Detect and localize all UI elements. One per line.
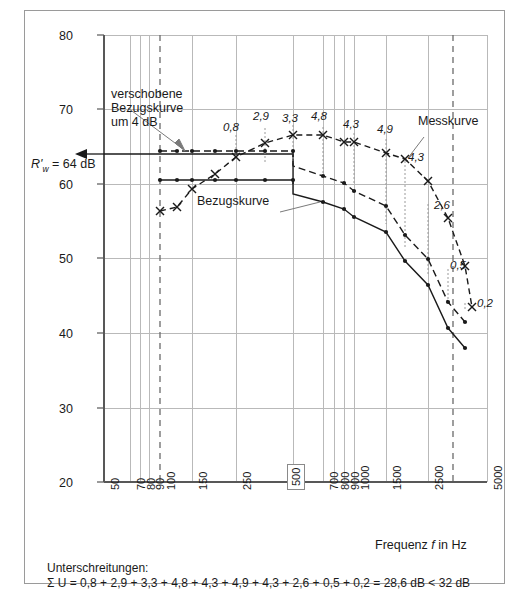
deficiency-label-4: 4,3: [343, 118, 359, 130]
chart-page: Bau-Schalldämm-Maß R' in dB 80 70 60 50 …: [0, 0, 529, 601]
deficiency-label-9: 0,2: [477, 297, 493, 309]
annotation-shifted-curve: verschobene Bezugskurve um 4 dB: [111, 87, 183, 129]
x-tick-50: 50: [109, 478, 121, 490]
deficiency-label-5: 4,9: [377, 123, 393, 135]
annotation-shifted-curve-line1: verschobene: [111, 87, 183, 101]
rw-arrow-head: [75, 149, 87, 159]
y-axis-ticks: [97, 35, 104, 482]
annotation-shifted-curve-line2: Bezugskurve: [111, 101, 183, 115]
deficiency-label-6: 4,3: [408, 151, 424, 163]
rw-marker-line: [75, 149, 293, 184]
plot-svg: [25, 11, 506, 585]
x-axis-title: Frequenz f in Hz: [375, 539, 467, 552]
deficiency-connectors: [236, 125, 465, 311]
annotation-shifted-curve-line3: um 4 dB: [111, 115, 183, 129]
deficiency-label-8: 0,5: [450, 259, 466, 271]
series-verschobene-bezugskurve-line: [160, 151, 465, 322]
caption-line-1: Unterschreitungen:: [47, 561, 470, 576]
x-tick-250: 250: [241, 472, 253, 490]
x-axis-title-unit: in Hz: [438, 538, 466, 552]
annotation-messkurve: Messkurve: [418, 114, 478, 128]
deficiency-label-0: 0,8: [223, 121, 239, 133]
x-tick-150: 150: [197, 472, 209, 490]
caption-block: Unterschreitungen: Σ U = 0,8 + 2,9 + 3,3…: [47, 561, 470, 591]
x-tick-500: 500: [287, 464, 305, 490]
x-axis-title-symbol: f: [431, 538, 434, 552]
deficiency-label-3: 4,8: [311, 110, 327, 122]
x-axis-title-text: Frequenz: [375, 538, 428, 552]
x-tick-2500: 2500: [433, 466, 445, 490]
x-tick-100: 100: [165, 472, 177, 490]
caption-line-2: Σ U = 0,8 + 2,9 + 3,3 + 4,8 + 4,3 + 4,9 …: [47, 576, 470, 591]
deficiency-label-1: 2,9: [253, 110, 269, 122]
deficiency-label-2: 3,3: [282, 112, 298, 124]
leader-bezugskurve: [280, 202, 320, 212]
x-tick-5000: 5000: [492, 466, 504, 490]
chart-frame: Bau-Schalldämm-Maß R' in dB 80 70 60 50 …: [24, 10, 505, 584]
deficiency-label-7: 2,6: [434, 199, 450, 211]
x-tick-1000: 1000: [359, 466, 371, 490]
annotation-bezugskurve: Bezugskurve: [197, 194, 269, 208]
x-tick-1500: 1500: [391, 466, 403, 490]
series-verschobene-bezugskurve-points: [158, 149, 467, 324]
